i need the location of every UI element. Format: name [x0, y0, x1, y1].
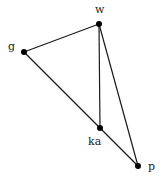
node-g: [21, 49, 27, 55]
edge-w-p: [99, 24, 138, 166]
label-w: w: [95, 3, 105, 16]
label-p: p: [148, 160, 155, 173]
graph-diagram: w g ka p: [0, 0, 162, 184]
node-p: [135, 163, 141, 169]
edge-w-ka: [99, 24, 100, 128]
nodes: [21, 21, 141, 169]
label-ka: ka: [88, 135, 102, 148]
edge-w-g: [24, 24, 99, 52]
edge-g-ka: [24, 52, 100, 128]
node-ka: [97, 125, 103, 131]
node-w: [96, 21, 102, 27]
label-g: g: [8, 40, 15, 53]
edges: [24, 24, 138, 166]
